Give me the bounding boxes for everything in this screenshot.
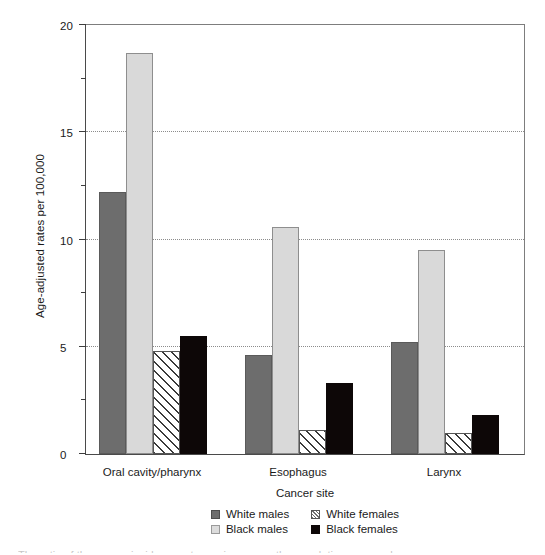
bar-white-females-0 <box>153 351 180 454</box>
y-axis-title: Age-adjusted rates per 100,000 <box>34 106 46 366</box>
legend-label: White males <box>226 508 289 520</box>
y-tick-label: 10 <box>60 235 73 247</box>
bar-white-males-1 <box>245 355 272 454</box>
bar-black-females-2 <box>472 415 499 454</box>
y-tick-label: 0 <box>60 449 73 461</box>
y-tick-major <box>79 24 86 25</box>
legend-label: White females <box>326 508 399 520</box>
legend-swatch-icon <box>211 510 220 519</box>
x-tick-label-1: Esophagus <box>269 466 327 478</box>
bar-black-males-2 <box>418 250 445 454</box>
x-tick-label-2: Larynx <box>427 466 462 478</box>
y-tick-label: 15 <box>60 127 73 139</box>
bar-black-males-1 <box>272 227 299 454</box>
bar-white-females-2 <box>445 433 472 454</box>
bar-black-females-1 <box>326 383 353 454</box>
y-tick-minor <box>81 185 86 186</box>
y-tick-label: 20 <box>60 20 73 32</box>
legend-swatch-icon <box>211 525 220 534</box>
y-tick-major <box>79 131 86 132</box>
legend-swatch-icon <box>311 525 320 534</box>
y-tick-major <box>79 453 86 454</box>
legend-item-black-females[interactable]: Black females <box>311 523 399 535</box>
bar-white-females-1 <box>299 430 326 454</box>
legend-label: Black males <box>226 523 288 535</box>
legend-item-black-males[interactable]: Black males <box>211 523 289 535</box>
legend-item-white-males[interactable]: White males <box>211 508 289 520</box>
chart-legend: White malesWhite femalesBlack malesBlack… <box>85 508 525 535</box>
bar-black-males-0 <box>126 53 153 454</box>
caption-sliver: The ratio of the cancer incidence rates … <box>18 549 518 553</box>
bar-white-males-2 <box>391 342 418 454</box>
plot-area: 05101520 <box>85 24 525 455</box>
x-tick-label-0: Oral cavity/pharynx <box>103 466 201 478</box>
bar-white-males-0 <box>99 192 126 454</box>
y-tick-label: 5 <box>60 342 73 354</box>
y-tick-minor <box>81 78 86 79</box>
bar-black-females-0 <box>180 336 207 454</box>
y-tick-minor <box>81 292 86 293</box>
y-tick-minor <box>81 399 86 400</box>
x-axis-title: Cancer site <box>85 487 525 499</box>
legend-label: Black females <box>326 523 398 535</box>
y-tick-major <box>79 346 86 347</box>
y-tick-major <box>79 239 86 240</box>
figure-root: Age-adjusted rates per 100,000 05101520 … <box>0 0 545 555</box>
legend-grid: White malesWhite femalesBlack malesBlack… <box>211 508 399 535</box>
legend-swatch-icon <box>311 510 320 519</box>
legend-item-white-females[interactable]: White females <box>311 508 399 520</box>
